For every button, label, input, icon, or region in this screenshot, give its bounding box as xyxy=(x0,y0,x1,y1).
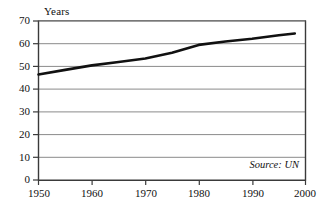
y-tick-label-0: 0 xyxy=(6,174,30,185)
y-tick-label-30: 30 xyxy=(6,106,30,117)
gridlines-horizontal xyxy=(38,21,306,157)
chart-canvas xyxy=(0,0,325,212)
x-tick-label-1960: 1960 xyxy=(72,188,112,199)
x-tick-label-1970: 1970 xyxy=(126,188,166,199)
y-tick-label-70: 70 xyxy=(6,15,30,26)
y-tick-label-20: 20 xyxy=(6,129,30,140)
y-tick-label-40: 40 xyxy=(6,83,30,94)
y-axis-title: Years xyxy=(44,5,70,17)
y-tick-label-50: 50 xyxy=(6,61,30,72)
x-tick-label-1990: 1990 xyxy=(233,188,273,199)
x-tick-label-2000: 2000 xyxy=(285,188,325,199)
axis-lines xyxy=(38,21,306,181)
source-note: Source: UN xyxy=(250,159,299,170)
x-tick-label-1980: 1980 xyxy=(179,188,219,199)
y-tick-label-60: 60 xyxy=(6,38,30,49)
line-chart: Years 70 60 50 40 30 20 10 0 1950 1960 1… xyxy=(0,0,325,212)
y-tick-marks xyxy=(33,21,38,180)
y-tick-label-10: 10 xyxy=(6,152,30,163)
data-line-life-expectancy xyxy=(39,34,295,75)
x-tick-label-1950: 1950 xyxy=(19,188,59,199)
